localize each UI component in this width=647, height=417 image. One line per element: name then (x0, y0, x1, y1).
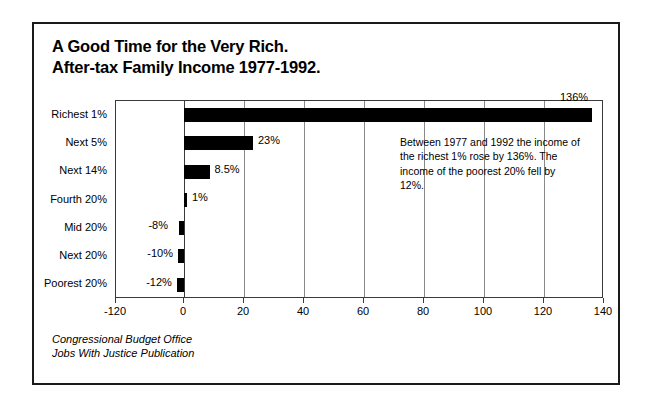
x-axis: -120020406080100120140 (115, 298, 603, 324)
y-axis-label: Next 14% (59, 164, 107, 177)
x-axis-tick (363, 298, 364, 303)
x-axis-tick-label: 140 (594, 305, 612, 318)
x-axis-tick (115, 298, 116, 303)
x-axis-tick-label: 80 (417, 305, 429, 318)
bar-value-label: 136% (560, 90, 588, 104)
bar-row: -12% (116, 271, 602, 299)
x-axis-tick (423, 298, 424, 303)
x-axis-tick (243, 298, 244, 303)
y-axis-label: Mid 20% (64, 221, 107, 234)
bar (184, 165, 210, 179)
bar-row: -8% (116, 214, 602, 242)
footer-line-2: Jobs With Justice Publication (52, 346, 194, 360)
bar-value-label: 23% (258, 133, 280, 147)
x-axis-tick-label: 120 (534, 305, 552, 318)
x-axis-tick-label: 20 (237, 305, 249, 318)
x-axis-tick-label: 100 (474, 305, 492, 318)
title-line-2: After-tax Family Income 1977-1992. (52, 57, 572, 78)
y-axis-label: Richest 1% (51, 108, 107, 121)
bar (184, 136, 253, 150)
bar (184, 108, 592, 122)
x-axis-tick (483, 298, 484, 303)
y-axis-label: Next 20% (59, 249, 107, 262)
x-axis-tick-label: 60 (357, 305, 369, 318)
chart-figure: A Good Time for the Very Rich. After-tax… (32, 22, 620, 385)
y-axis-labels: Richest 1%Next 5%Next 14%Fourth 20%Mid 2… (34, 100, 111, 298)
bar (179, 221, 184, 235)
x-axis-tick (603, 298, 604, 303)
y-axis-label: Poorest 20% (44, 277, 107, 290)
bar-value-label: -12% (146, 275, 172, 289)
bar (184, 193, 187, 207)
x-axis-tick-label: 40 (297, 305, 309, 318)
y-axis-label: Fourth 20% (50, 193, 107, 206)
chart-title: A Good Time for the Very Rich. After-tax… (52, 36, 572, 78)
bar-row: 136% (116, 101, 602, 129)
x-axis-tick (303, 298, 304, 303)
x-axis-tick (543, 298, 544, 303)
bar (177, 278, 184, 292)
bar-value-label: -10% (147, 246, 173, 260)
bar-value-label: 8.5% (215, 162, 240, 176)
y-axis-label: Next 5% (65, 136, 107, 149)
plot-area: 136%23%8.5%1%-8%-10%-12% (115, 100, 603, 298)
chart-annotation: Between 1977 and 1992 the income of the … (400, 135, 582, 192)
x-axis-tick-label: 0 (180, 305, 186, 318)
chart-source-footer: Congressional Budget Office Jobs With Ju… (52, 332, 194, 360)
bar-value-label: -8% (148, 218, 168, 232)
footer-line-1: Congressional Budget Office (52, 332, 194, 346)
bar-value-label: 1% (192, 190, 208, 204)
x-axis-tick (183, 298, 184, 303)
title-line-1: A Good Time for the Very Rich. (52, 36, 572, 57)
bar-row: -10% (116, 242, 602, 270)
bar-series: 136%23%8.5%1%-8%-10%-12% (116, 101, 602, 297)
bar (178, 249, 184, 263)
x-axis-tick-label: -120 (104, 305, 126, 318)
